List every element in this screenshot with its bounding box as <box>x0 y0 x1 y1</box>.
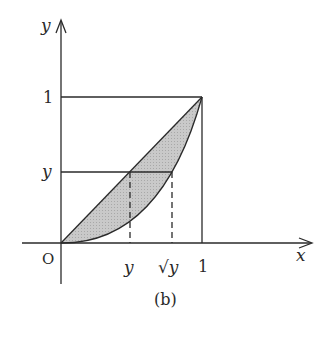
figure-caption: (b) <box>154 290 177 309</box>
y-tick-label-y: y <box>41 161 52 181</box>
diagram-figure: y x O 1 y y √y 1 (b) <box>0 0 332 339</box>
line-y-equals-x <box>61 97 202 243</box>
y-axis-label: y <box>40 15 51 35</box>
x-axis-label: x <box>296 245 306 265</box>
x-tick-label-sqrt-y: √y <box>158 257 179 277</box>
x-tick-label-y: y <box>123 257 134 277</box>
origin-label: O <box>42 250 54 268</box>
y-tick-label-1: 1 <box>43 88 53 107</box>
x-tick-label-1: 1 <box>198 257 208 276</box>
